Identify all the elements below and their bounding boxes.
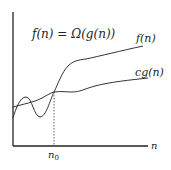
big-omega-diagram: f(n) = Ω(g(n)) f(n) cg(n) n n0: [0, 0, 171, 170]
f-n-curve: [13, 46, 143, 118]
f-n-label: f(n): [135, 32, 156, 45]
n0-label-subscript: 0: [54, 154, 58, 162]
cg-n-curve: [13, 78, 148, 107]
diagram-title: f(n) = Ω(g(n)): [31, 27, 116, 41]
x-axis-label: n: [151, 140, 157, 151]
n0-label: n0: [48, 149, 59, 162]
cg-n-label: cg(n): [135, 66, 164, 79]
